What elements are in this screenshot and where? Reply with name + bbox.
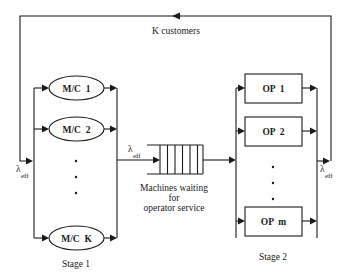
lambda-eff-left: λ eff [16, 164, 29, 180]
lambda-eff-middle: λ eff [128, 144, 141, 160]
lambda-subscript: eff [21, 172, 29, 180]
machine-label: M/C 2 [63, 125, 91, 135]
lambda-subscript: eff [133, 152, 141, 160]
arrow-right-icon [310, 128, 317, 135]
feedback-arrow-left-icon [172, 13, 180, 20]
arrow-right-icon [42, 235, 49, 242]
queue-label-line-2: for [168, 193, 180, 203]
operator-label: OP 2 [262, 127, 284, 137]
machine-label: M/C 1 [63, 84, 91, 94]
machine-label: M/C K [61, 234, 92, 244]
ellipsis-dot [75, 192, 77, 194]
loop-label: K customers [152, 26, 200, 36]
exit-arrow-right-icon [323, 158, 330, 165]
ellipsis-dot [272, 198, 274, 200]
operator-m: OP m [236, 207, 317, 236]
operator-label: OP m [261, 217, 286, 227]
lambda-eff-right: λ eff [320, 164, 333, 180]
machine-k: M/C K [34, 226, 117, 250]
stage-2: OP 1 OP 2 OP m Stage 2 [236, 74, 330, 262]
operator-label: OP 1 [262, 84, 284, 94]
machine-2: M/C 2 [34, 117, 117, 141]
ellipsis-dot [75, 176, 77, 178]
stage1-caption: Stage 1 [62, 259, 90, 269]
arrow-right-icon [229, 157, 236, 164]
ellipsis-dot [272, 182, 274, 184]
operator-2: OP 2 [236, 117, 317, 146]
arrow-right-icon [110, 85, 117, 92]
ellipsis-dot [272, 166, 274, 168]
arrow-right-icon [42, 85, 49, 92]
stage2-caption: Stage 2 [259, 252, 287, 262]
arrow-right-icon [238, 85, 245, 92]
entry-arrow-right-icon [26, 158, 33, 165]
arrow-right-icon [110, 126, 117, 133]
arrow-right-icon [42, 126, 49, 133]
ellipsis-dot [75, 160, 77, 162]
arrow-right-icon [238, 128, 245, 135]
machine-1: M/C 1 [34, 76, 117, 100]
arrow-right-icon [110, 235, 117, 242]
lambda-subscript: eff [325, 172, 333, 180]
queue-label-line-3: operator service [144, 203, 205, 213]
queue-label-line-1: Machines waiting [140, 183, 208, 193]
stage-1: M/C 1 M/C 2 M/C K Stage 1 [34, 76, 117, 269]
arrow-right-icon [238, 218, 245, 225]
closed-queueing-network-diagram: K customers λ eff λ eff λ eff M/C 1 M/C [0, 0, 345, 279]
arrow-right-icon [310, 85, 317, 92]
arrow-right-icon [153, 157, 160, 164]
arrow-right-icon [310, 218, 317, 225]
operator-1: OP 1 [236, 74, 317, 103]
